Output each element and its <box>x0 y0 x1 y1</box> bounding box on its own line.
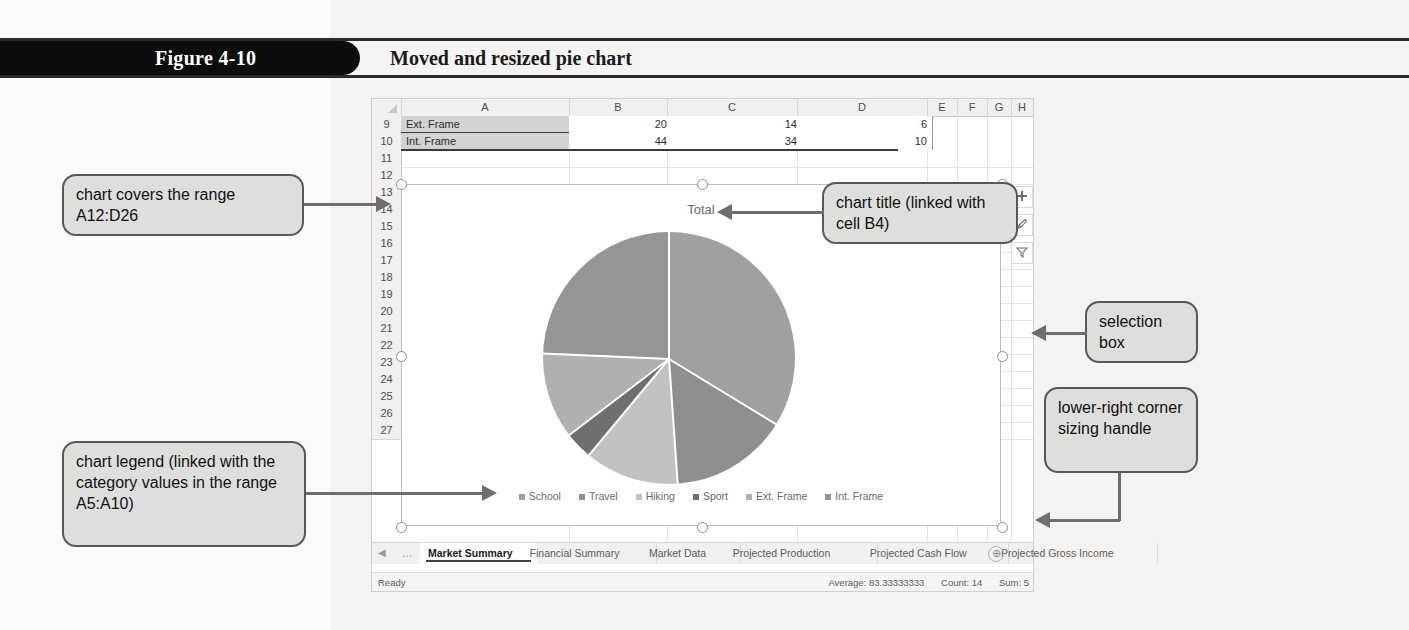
callout-sizing-handle-arrow-stem <box>1118 473 1121 521</box>
excel-worksheet-window[interactable]: A B C D E F G H 910111213141516171819202… <box>371 98 1034 592</box>
status-count: Count: 14 <box>941 577 982 588</box>
figure-caption: Moved and resized pie chart <box>390 47 632 70</box>
grid-row <box>401 150 1033 168</box>
legend-label: Int. Frame <box>835 490 883 502</box>
column-header-a[interactable]: A <box>401 99 570 116</box>
callout-chart-title-arrow-head <box>717 204 732 220</box>
legend-item[interactable]: Int. Frame <box>825 490 883 502</box>
row-header-18[interactable]: 18 <box>372 269 402 287</box>
column-header-f[interactable]: F <box>957 99 988 116</box>
callout-chart-range: chart covers the range A12:D26 <box>62 174 304 236</box>
callout-chart-title-arrow-line <box>732 211 824 214</box>
cell-a10[interactable]: Int. Frame <box>401 133 575 150</box>
legend-swatch-icon <box>825 494 831 500</box>
legend-item[interactable]: School <box>519 490 561 502</box>
sheet-tab-projected-gross-income[interactable]: Projected Gross Income <box>993 543 1158 564</box>
figure-header: Figure 4-10 Moved and resized pie chart <box>0 38 1409 78</box>
column-header-g[interactable]: G <box>987 99 1012 116</box>
column-header-row: A B C D E F G H <box>372 99 1033 117</box>
pie-slice-divider <box>668 232 670 359</box>
row-header-11[interactable]: 11 <box>372 150 402 168</box>
legend-label: Sport <box>703 490 728 502</box>
pie-chart-plot-area[interactable] <box>543 232 795 484</box>
sheet-tab-market-summary[interactable]: Market Summary <box>420 543 537 564</box>
cell-c10[interactable]: 34 <box>667 133 803 150</box>
select-all-corner[interactable] <box>372 99 402 116</box>
row-header-17[interactable]: 17 <box>372 252 402 270</box>
sizing-handle-bottom-left[interactable] <box>396 522 407 533</box>
column-header-c[interactable]: C <box>667 99 798 116</box>
status-sum: Sum: 5 <box>999 577 1029 588</box>
legend-swatch-icon <box>693 494 699 500</box>
legend-item[interactable]: Ext. Frame <box>746 490 807 502</box>
callout-chart-range-arrow-head <box>376 196 391 212</box>
cell-b9[interactable]: 20 <box>569 116 673 133</box>
legend-item[interactable]: Hiking <box>636 490 675 502</box>
gridline-h <box>1011 116 1012 543</box>
cell-d10[interactable]: 10 <box>797 133 933 150</box>
callout-sizing-handle-arrow-line <box>1050 519 1120 522</box>
column-header-h[interactable]: H <box>1011 99 1033 116</box>
tab-nav-ellipsis[interactable]: ... <box>402 546 412 560</box>
sizing-handle-middle-right[interactable] <box>997 351 1008 362</box>
callout-chart-title: chart title (linked with cell B4) <box>822 182 1018 244</box>
sheet-tab-financial-summary[interactable]: Financial Summary <box>522 543 657 564</box>
legend-label: Travel <box>589 490 618 502</box>
callout-chart-range-arrow-line <box>304 203 378 206</box>
header-rule-bottom <box>0 75 1409 78</box>
row-header-10[interactable]: 10 <box>372 133 402 151</box>
column-header-b[interactable]: B <box>569 99 668 116</box>
sizing-handle-middle-left[interactable] <box>396 351 407 362</box>
row-header-19[interactable]: 19 <box>372 286 402 304</box>
row-header-27[interactable]: 27 <box>372 422 402 440</box>
callout-selection-box-arrow-head <box>1031 325 1046 341</box>
figure-number-label: Figure 4-10 <box>155 47 256 70</box>
sizing-handle-top-center[interactable] <box>697 179 708 190</box>
legend-label: Hiking <box>646 490 675 502</box>
legend-swatch-icon <box>746 494 752 500</box>
legend-swatch-icon <box>519 494 525 500</box>
status-bar: Ready Average: 83.33333333 Count: 14 Sum… <box>372 572 1033 591</box>
sizing-handle-top-left[interactable] <box>396 179 407 190</box>
legend-item[interactable]: Sport <box>693 490 728 502</box>
filter-icon <box>1016 246 1028 258</box>
sheet-tab-projected-production[interactable]: Projected Production <box>725 543 878 564</box>
callout-sizing-handle-arrow-head <box>1035 512 1050 528</box>
column-header-e[interactable]: E <box>927 99 958 116</box>
legend-label: Ext. Frame <box>756 490 807 502</box>
callout-chart-legend-arrow-line <box>306 492 484 495</box>
callout-chart-legend: chart legend (linked with the category v… <box>62 441 306 547</box>
callout-selection-box: selection box <box>1085 301 1198 363</box>
row-header-20[interactable]: 20 <box>372 303 402 321</box>
callout-chart-legend-arrow-head <box>482 485 497 501</box>
tab-nav-prev-icon[interactable]: ◀ <box>378 547 386 558</box>
legend-item[interactable]: Travel <box>579 490 618 502</box>
status-mode: Ready <box>378 577 405 588</box>
cell-b10[interactable]: 44 <box>569 133 673 150</box>
cell-d9[interactable]: 6 <box>797 116 933 133</box>
row-header-24[interactable]: 24 <box>372 371 402 389</box>
legend-swatch-icon <box>636 494 642 500</box>
status-summary: Average: 83.33333333 Count: 14 Sum: 5 <box>814 577 1029 588</box>
row-header-9[interactable]: 9 <box>372 116 402 134</box>
sizing-handle-bottom-right[interactable] <box>997 522 1008 533</box>
sizing-handle-bottom-center[interactable] <box>697 522 708 533</box>
sheet-tab-bar[interactable]: ◀ ... Market SummaryFinancial SummaryMar… <box>372 542 1033 564</box>
status-average: Average: 83.33333333 <box>828 577 924 588</box>
legend-swatch-icon <box>579 494 585 500</box>
row-header-15[interactable]: 15 <box>372 218 402 236</box>
row-header-26[interactable]: 26 <box>372 405 402 423</box>
column-header-d[interactable]: D <box>797 99 928 116</box>
sheet-tab-projected-cash-flow[interactable]: Projected Cash Flow <box>862 543 1009 564</box>
row-header-25[interactable]: 25 <box>372 388 402 406</box>
cell-a9[interactable]: Ext. Frame <box>401 116 575 133</box>
row-header-21[interactable]: 21 <box>372 320 402 338</box>
callout-sizing-handle: lower-right corner sizing handle <box>1044 387 1198 473</box>
cell-c9[interactable]: 14 <box>667 116 803 133</box>
add-sheet-button[interactable]: ⊕ <box>988 546 1004 562</box>
chart-filters-button[interactable] <box>1011 242 1033 264</box>
legend-label: School <box>529 490 561 502</box>
row-header-16[interactable]: 16 <box>372 235 402 253</box>
row10-underline <box>401 149 898 151</box>
callout-selection-box-arrow-line <box>1046 332 1087 335</box>
